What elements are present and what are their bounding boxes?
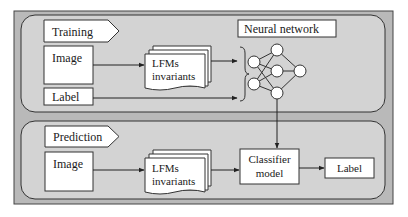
- prediction-image-text: Image: [53, 157, 83, 171]
- training-tag-text: Training: [52, 25, 93, 39]
- training-label-box: Label: [44, 88, 93, 105]
- training-image-text: Image: [52, 51, 82, 65]
- classifier-line2: model: [256, 167, 284, 179]
- network-title-box: Neural network: [238, 20, 336, 37]
- training-features-line2: invariants: [152, 70, 195, 82]
- classifier-box: Classifier model: [240, 149, 299, 184]
- prediction-features-doc: LFMs invariants: [145, 150, 211, 194]
- training-tag: Training: [44, 20, 119, 42]
- training-features-line1: LFMs: [152, 57, 179, 69]
- training-features-doc: LFMs invariants: [145, 46, 211, 90]
- output-label-box: Label: [325, 158, 374, 178]
- training-image-box: Image: [44, 46, 93, 84]
- output-label-text: Label: [337, 162, 362, 174]
- prediction-image-box: Image: [45, 152, 93, 191]
- prediction-tag: Prediction: [45, 126, 119, 147]
- prediction-features-line1: LFMs: [152, 162, 179, 174]
- prediction-tag-text: Prediction: [53, 130, 102, 144]
- pipeline-diagram: Training Image Label LFMs invariants Neu…: [0, 0, 408, 217]
- classifier-line1: Classifier: [248, 153, 290, 165]
- training-label-text: Label: [52, 90, 80, 104]
- network-title-text: Neural network: [244, 22, 319, 36]
- prediction-features-line2: invariants: [152, 175, 195, 187]
